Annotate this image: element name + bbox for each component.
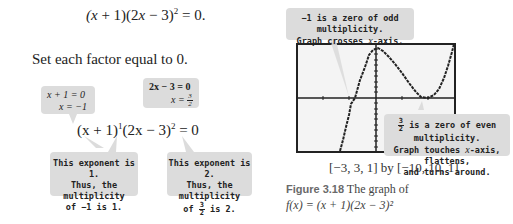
graph <box>0 0 513 224</box>
callout-even-multiplicity: 32 is a zero of even multiplicity. Graph… <box>384 114 510 156</box>
figure-caption: Figure 3.18 The graph of <box>286 182 409 197</box>
figure-label: Figure 3.18 <box>286 183 344 195</box>
callout-odd-multiplicity: −1 is a zero of odd multiplicity. Graph … <box>286 8 414 40</box>
figure-equation: f(x) = (x + 1)(2x − 3)² <box>286 198 393 213</box>
viewing-window: [−3, 3, 1] by [−10, 10, 1] <box>329 160 458 176</box>
